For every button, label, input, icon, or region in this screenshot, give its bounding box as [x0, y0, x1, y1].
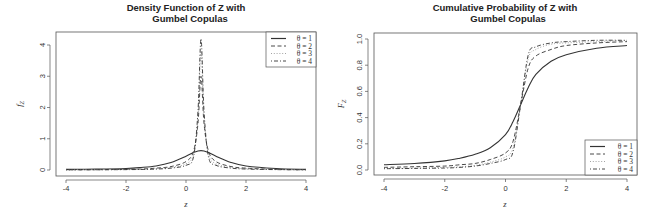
density-plot-title-line1: Density Function of Z with [127, 2, 246, 13]
x-tick: 0 [503, 179, 507, 193]
y-tick-label: 1 [38, 137, 47, 141]
density-y-axis-label: fZ [14, 100, 25, 106]
cdf-legend: θ = 1θ = 2θ = 3θ = 4 [585, 140, 637, 175]
x-tick-label: -4 [381, 184, 388, 193]
cdf-plot-title-line1: Cumulative Probability of Z with [433, 2, 578, 13]
y-tick: 1 [38, 137, 50, 141]
y-tick-label: 1.0 [355, 34, 364, 44]
y-tick: 0.2 [355, 139, 368, 149]
cdf-x-axis: -4-2024 [381, 179, 629, 193]
y-tick-label: 0.0 [355, 165, 364, 175]
x-tick-label: -2 [123, 184, 130, 193]
y-tick: 0.0 [355, 165, 368, 175]
x-tick-label: -2 [441, 184, 448, 193]
x-tick: 4 [304, 180, 308, 193]
x-tick: 2 [564, 179, 568, 193]
x-tick: -2 [123, 180, 130, 193]
x-tick: -4 [381, 179, 388, 193]
y-tick: 4 [38, 43, 50, 47]
chart-canvas: Density Function of Z with Gumbel Copula… [0, 0, 653, 219]
y-tick: 2 [38, 105, 50, 109]
density-plot-panel: Density Function of Z with Gumbel Copula… [14, 2, 316, 209]
x-tick-label: 2 [244, 184, 248, 193]
cdf-plot-title-line2: Gumbel Copulas [470, 13, 545, 24]
y-tick: 0.8 [355, 60, 368, 70]
series-line-theta-3 [66, 51, 306, 170]
x-tick-label: 0 [184, 184, 188, 193]
legend-label: θ = 4 [297, 57, 313, 66]
x-tick: -2 [441, 179, 448, 193]
density-legend: θ = 1θ = 2θ = 3θ = 4 [266, 32, 316, 67]
density-x-axis: -4-2024 [63, 180, 308, 193]
y-tick-label: 4 [38, 43, 47, 47]
y-tick-label: 0.6 [355, 86, 364, 96]
x-tick-label: 4 [304, 184, 308, 193]
series-line-theta-1 [66, 151, 306, 170]
y-tick: 1.0 [355, 34, 368, 44]
y-tick-label: 2 [38, 105, 47, 109]
y-tick: 3 [38, 74, 50, 78]
x-tick: -4 [63, 180, 70, 193]
y-tick-label: 0 [38, 168, 47, 172]
x-tick-label: 2 [564, 184, 568, 193]
y-tick: 0.6 [355, 86, 368, 96]
x-tick-label: 4 [625, 184, 629, 193]
x-tick-label: -4 [63, 184, 70, 193]
cdf-x-axis-label: z [502, 199, 507, 209]
cdf-y-axis-label: FZ [336, 99, 347, 109]
y-tick-label: 0.4 [355, 112, 364, 122]
y-tick: 0 [38, 168, 50, 172]
density-x-axis-label: z [183, 199, 188, 209]
y-tick-label: 0.8 [355, 60, 364, 70]
density-plot-title-line2: Gumbel Copulas [152, 13, 227, 24]
cdf-plot-panel: Cumulative Probability of Z with Gumbel … [336, 2, 637, 209]
x-tick: 0 [184, 180, 188, 193]
density-y-axis: 01234 [38, 43, 50, 172]
x-tick: 4 [625, 179, 629, 193]
x-tick-label: 0 [503, 184, 507, 193]
cdf-y-axis: 0.00.20.40.60.81.0 [355, 34, 368, 175]
y-tick-label: 3 [38, 74, 47, 78]
y-tick: 0.4 [355, 112, 368, 122]
x-tick: 2 [244, 180, 248, 193]
y-tick-label: 0.2 [355, 139, 364, 149]
legend-label: θ = 4 [618, 165, 634, 174]
